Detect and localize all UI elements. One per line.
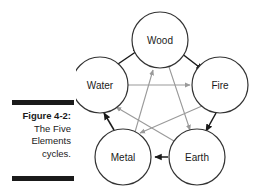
caption-rule-top [12, 100, 74, 105]
edge-wood-to-earth [169, 67, 190, 130]
caption-line-4: cycles. [0, 148, 71, 161]
node-water[interactable]: Water [76, 57, 128, 113]
edge-metal-to-wood [135, 70, 153, 132]
node-fire[interactable]: Fire [192, 57, 248, 113]
node-earth-label: Earth [185, 152, 209, 163]
caption-line-1: Figure 4-2: [0, 110, 71, 123]
figure-page: Figure 4-2: The Five Elements cycles. [0, 0, 257, 196]
five-elements-diagram: Wood Water Fire Metal Earth [76, 0, 257, 196]
node-water-label: Water [87, 80, 114, 91]
caption-line-3: Elements [0, 135, 71, 148]
node-metal[interactable]: Metal [95, 129, 151, 185]
caption-rule-bottom [12, 176, 74, 181]
edge-fire-to-earth [206, 113, 216, 131]
edge-metal-to-water [104, 113, 114, 130]
caption-line-2: The Five [0, 123, 71, 136]
figure-caption-text: Figure 4-2: The Five Elements cycles. [0, 110, 71, 160]
node-earth[interactable]: Earth [169, 129, 225, 185]
node-metal-label: Metal [111, 152, 135, 163]
node-wood[interactable]: Wood [132, 12, 188, 68]
node-wood-label: Wood [147, 35, 173, 46]
element-nodes: Wood Water Fire Metal Earth [76, 12, 248, 185]
node-fire-label: Fire [211, 80, 229, 91]
figure-caption-block: Figure 4-2: The Five Elements cycles. [0, 0, 76, 196]
